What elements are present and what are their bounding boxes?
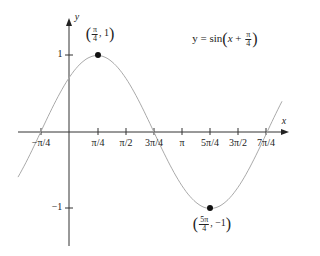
y-tick-label: −1	[52, 201, 63, 212]
equation-label: y = sin(x + π4)	[192, 30, 257, 48]
max-point-label: (π4, 1)	[86, 25, 115, 43]
x-tick-label: 3π/2	[229, 137, 247, 148]
x-tick-label: −π/4	[32, 137, 50, 148]
x-tick-label: 7π/4	[257, 137, 275, 148]
x-tick-label: π/2	[120, 137, 133, 148]
y-axis-label: y	[75, 11, 79, 22]
x-axis-label: x	[282, 115, 286, 126]
x-tick-label: 3π/4	[145, 137, 163, 148]
x-tick-label: π	[179, 137, 184, 148]
max-point	[95, 52, 101, 58]
x-tick-label: π/4	[92, 137, 105, 148]
y-axis-arrow-icon	[66, 18, 72, 26]
x-axis-arrow-icon	[281, 129, 289, 135]
min-point-label: (5π4, −1)	[193, 215, 231, 233]
x-tick-label: 5π/4	[201, 137, 219, 148]
min-point	[207, 205, 213, 211]
y-tick-label: 1	[58, 48, 63, 59]
